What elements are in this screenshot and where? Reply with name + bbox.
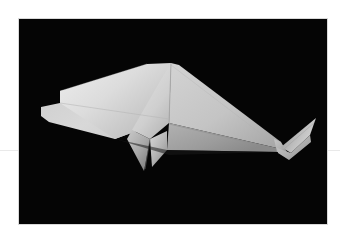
origami-photograph — [19, 19, 327, 224]
page-root — [0, 0, 340, 244]
photo-canvas — [19, 19, 327, 224]
